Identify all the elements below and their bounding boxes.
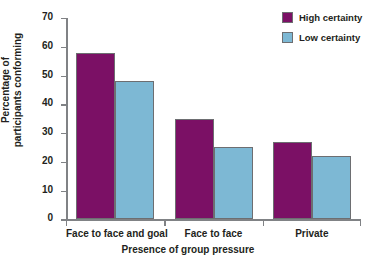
x-axis-tick <box>360 221 361 226</box>
y-axis-tick: 70 <box>61 18 66 19</box>
y-axis-tick-label: 50 <box>42 69 53 80</box>
y-axis-tick: 60 <box>61 47 66 48</box>
x-axis-line <box>66 219 361 221</box>
x-axis-tick <box>66 221 67 226</box>
y-axis-tick-label: 70 <box>42 11 53 22</box>
bar <box>312 156 351 219</box>
y-axis-tick-label: 30 <box>42 126 53 137</box>
y-axis-title: Percentage of participants conforming <box>0 15 24 165</box>
y-axis-tick: 50 <box>61 76 66 77</box>
y-axis-tick-label: 10 <box>42 184 53 195</box>
y-axis-tick-label: 60 <box>42 40 53 51</box>
x-axis-title: Presence of group pressure <box>0 244 376 255</box>
y-axis-tick-label: 20 <box>42 155 53 166</box>
y-axis-tick-label: 40 <box>42 97 53 108</box>
x-axis-tick <box>263 221 264 226</box>
bar <box>115 81 154 219</box>
bar <box>76 53 115 220</box>
bar-chart: High certainty Low certainty 01020304050… <box>0 0 376 268</box>
x-axis-category-label: Private <box>263 228 361 239</box>
x-axis-category-label: Face to face <box>164 228 262 239</box>
bar <box>175 119 214 220</box>
bar <box>273 142 312 220</box>
x-axis-tick <box>164 221 165 226</box>
y-axis-title-line2: participants conforming <box>12 15 24 165</box>
x-axis-category-label: Face to face and goal <box>66 228 164 239</box>
y-axis-tick: 20 <box>61 162 66 163</box>
y-axis-tick-label: 0 <box>47 212 53 223</box>
y-axis-tick: 30 <box>61 133 66 134</box>
y-axis-tick: 10 <box>61 191 66 192</box>
bar <box>214 147 253 219</box>
y-axis-tick: 40 <box>61 104 66 105</box>
y-axis-title-line1: Percentage of <box>0 15 12 165</box>
plot-area: 010203040506070 <box>66 18 361 221</box>
y-axis-line <box>66 18 68 221</box>
